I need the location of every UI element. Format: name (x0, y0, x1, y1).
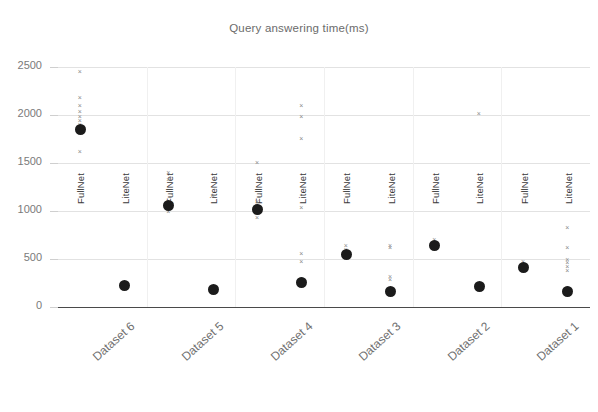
observation-marker: × (255, 214, 259, 221)
observation-marker: × (78, 148, 82, 155)
mean-marker (518, 262, 529, 273)
y-tick-mark (50, 67, 58, 68)
observation-marker: × (388, 276, 392, 283)
y-tick-mark (50, 163, 58, 164)
observation-marker: × (299, 250, 303, 257)
observation-marker: × (78, 94, 82, 101)
observation-marker: × (299, 102, 303, 109)
observation-marker: × (565, 244, 569, 251)
x-tick-label: Dataset 1 (534, 319, 582, 364)
observation-marker: × (299, 113, 303, 120)
mean-marker (429, 240, 440, 251)
series-label-fullnet: FullNet (518, 168, 529, 208)
observation-marker: × (299, 135, 303, 142)
mean-marker (562, 286, 573, 297)
x-tick-label: Dataset 3 (356, 319, 404, 364)
series-label-fullnet: FullNet (75, 168, 86, 208)
y-tick-label: 0 (0, 299, 42, 311)
observation-marker: × (388, 244, 392, 251)
x-tick-label: Dataset 2 (445, 319, 493, 364)
y-tick-label: 1500 (0, 155, 42, 167)
mean-marker (75, 124, 86, 135)
y-tick-label: 1000 (0, 203, 42, 215)
panel-separator (324, 67, 325, 307)
mean-marker (163, 200, 174, 211)
x-tick-label: Dataset 5 (179, 319, 227, 364)
series-label-litenet: LiteNet (208, 168, 219, 208)
y-tick-mark (50, 211, 58, 212)
observation-marker: × (166, 176, 170, 183)
mean-marker (296, 277, 307, 288)
chart-title: Query answering time(ms) (0, 22, 598, 34)
y-tick-mark (50, 115, 58, 116)
y-tick-mark (50, 307, 58, 308)
plot-area: 05001000150020002500 FullNetLiteNetFullN… (58, 67, 590, 307)
chart-container: Query answering time(ms) 050010001500200… (0, 0, 598, 412)
mean-marker (252, 204, 263, 215)
series-label-litenet: LiteNet (474, 168, 485, 208)
x-tick-label: Dataset 4 (268, 319, 316, 364)
series-label-fullnet: FullNet (429, 168, 440, 208)
series-label-litenet: LiteNet (296, 168, 307, 208)
panel-separator (501, 67, 502, 307)
mean-marker (341, 249, 352, 260)
observation-marker: × (565, 224, 569, 231)
series-label-litenet: LiteNet (119, 168, 130, 208)
observation-marker: × (299, 258, 303, 265)
observation-marker: × (299, 204, 303, 211)
observation-marker: × (211, 192, 215, 199)
mean-marker (119, 280, 130, 291)
observation-marker: × (565, 267, 569, 274)
y-tick-label: 500 (0, 251, 42, 263)
y-tick-mark (50, 259, 58, 260)
x-tick-label: Dataset 6 (90, 319, 138, 364)
y-tick-label: 2500 (0, 59, 42, 71)
mean-marker (208, 284, 219, 295)
series-label-litenet: LiteNet (562, 168, 573, 208)
panel-separator (147, 67, 148, 307)
observation-marker: × (78, 68, 82, 75)
panel-separator (235, 67, 236, 307)
y-tick-label: 2000 (0, 107, 42, 119)
series-label-fullnet: FullNet (341, 168, 352, 208)
series-label-litenet: LiteNet (385, 168, 396, 208)
x-axis-line (58, 307, 590, 308)
mean-marker (385, 286, 396, 297)
observation-marker: × (255, 159, 259, 166)
observation-marker: × (477, 110, 481, 117)
panel-separator (413, 67, 414, 307)
mean-marker (474, 281, 485, 292)
